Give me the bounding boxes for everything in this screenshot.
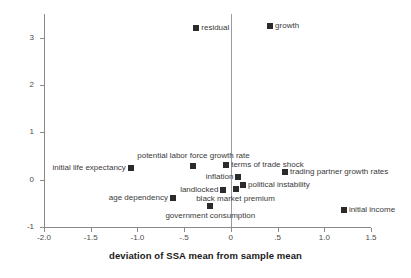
data-point-marker [128,165,134,171]
x-tick [44,228,45,232]
y-tick-label: -1 [6,223,34,231]
data-point-label: initial life expectancy [53,164,126,172]
x-tick-label: -1.0 [117,234,157,242]
data-point-label: age dependency [109,194,168,202]
data-point-label: political instability [248,181,310,189]
y-tick-label: 2 [6,81,34,89]
data-point-marker [207,203,213,209]
x-tick-label: .5 [258,234,298,242]
data-point-marker [190,163,196,169]
x-tick-label: -2.0 [24,234,64,242]
scatter-chart: 3210-1 -2.0-1.5-1.0-.50.51.01.5 residual… [0,0,411,278]
data-point-marker [233,186,239,192]
y-tick-label: 1 [6,128,34,136]
x-tick [137,228,138,232]
x-axis-title: deviation of SSA mean from sample mean [0,250,411,261]
data-point-label: growth [275,22,299,30]
data-point-marker [235,174,241,180]
data-point-label: residual [201,24,229,32]
x-tick [324,228,325,232]
y-tick [40,38,44,39]
y-tick [40,132,44,133]
y-tick-label: 3 [6,34,34,42]
x-tick [278,228,279,232]
data-point-label: black market premium [196,195,275,203]
data-point-label: trading partner growth rates [290,168,388,176]
data-point-label: landlocked [180,186,218,194]
data-point-marker [267,23,273,29]
data-point-marker [223,162,229,168]
data-point-marker [240,182,246,188]
data-point-label: inflation [206,173,234,181]
data-point-label: initial income [349,206,395,214]
data-point-marker [193,25,199,31]
x-axis-line [44,227,371,228]
y-tick [40,85,44,86]
x-tick-label: 1.5 [351,234,391,242]
data-point-label: government consumption [165,212,255,220]
x-tick-label: 1.0 [304,234,344,242]
y-tick-label: 0 [6,176,34,184]
y-tick [40,180,44,181]
data-point-marker [170,195,176,201]
x-tick [184,228,185,232]
x-tick-label: -.5 [164,234,204,242]
x-tick-label: -1.5 [71,234,111,242]
y-axis-line [44,14,45,227]
x-tick [371,228,372,232]
data-point-marker [282,169,288,175]
x-tick [231,228,232,232]
x-tick [91,228,92,232]
x-tick-label: 0 [211,234,251,242]
data-point-marker [220,187,226,193]
data-point-marker [341,207,347,213]
